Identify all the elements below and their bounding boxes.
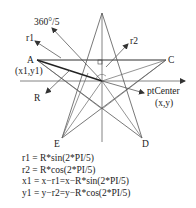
center-coords: (x,y)	[155, 98, 173, 109]
right-angle-marker	[98, 60, 102, 64]
formula-block: r1 = R*sin(2*PI/5) r2 = R*cos(2*PI/5) x1…	[22, 153, 131, 199]
r1-arrow	[35, 41, 61, 58]
ray-center-d	[102, 81, 142, 138]
formula-r1: r1 = R*sin(2*PI/5)	[22, 153, 131, 165]
radius-label: R	[34, 93, 41, 103]
r2-arrow	[106, 44, 128, 67]
formula-x1: x1 = x−r1=x−R*sin(2*PI/5)	[22, 176, 131, 188]
r1-label: r1	[26, 33, 34, 43]
point-a-label: A	[27, 55, 34, 65]
ray-center-c	[102, 60, 166, 81]
ptcenter-label: ptCenter	[147, 86, 181, 96]
pentagram	[37, 13, 166, 138]
point-d-label: D	[142, 139, 149, 149]
formula-r2: r2 = R*cos(2*PI/5)	[22, 165, 131, 177]
formula-y1: y1 = y−r2=y−R*cos(2*PI/5)	[22, 188, 131, 200]
angle-label: 360°/5	[34, 17, 60, 27]
ray-center-e	[62, 81, 102, 138]
point-c-label: C	[168, 55, 174, 65]
ptcenter-arrow	[102, 81, 144, 93]
point-a-coords: (x1,y1)	[15, 66, 43, 77]
line-a-inner	[37, 60, 102, 109]
point-e-label: E	[54, 139, 60, 149]
r2-label: r2	[130, 36, 138, 46]
